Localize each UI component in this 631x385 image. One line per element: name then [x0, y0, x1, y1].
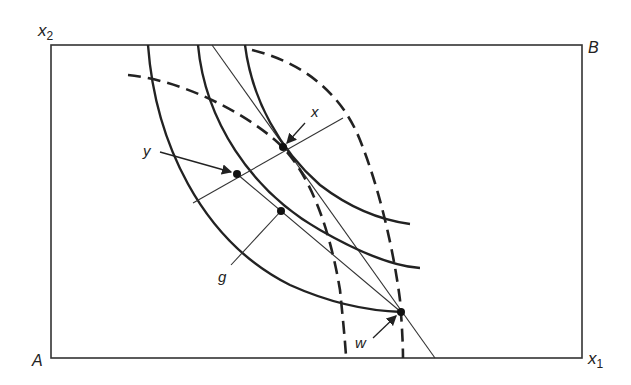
arrow-to-x — [287, 123, 305, 143]
point-w — [397, 308, 405, 316]
point-g — [277, 207, 285, 215]
axis-label-x2: x2 — [37, 21, 54, 43]
point-y — [233, 170, 241, 178]
point-label-g: g — [218, 268, 227, 285]
edgeworth-box-diagram: x2 B A x1 x y g w — [0, 0, 631, 385]
axis-label-x1: x1 — [587, 349, 604, 371]
point-x — [279, 143, 287, 151]
point-label-w: w — [355, 334, 367, 351]
corner-label-b: B — [588, 39, 599, 56]
point-label-y: y — [142, 142, 152, 159]
box-frame — [51, 45, 582, 358]
point-label-x: x — [310, 103, 319, 120]
solid-curve-1 — [148, 45, 402, 312]
arrow-to-y — [160, 152, 231, 172]
solid-curve-3 — [245, 45, 410, 224]
arrow-to-w — [373, 316, 396, 338]
dashed-curve-2 — [252, 50, 403, 358]
corner-label-a: A — [31, 352, 43, 369]
normal-line-g — [231, 211, 281, 265]
